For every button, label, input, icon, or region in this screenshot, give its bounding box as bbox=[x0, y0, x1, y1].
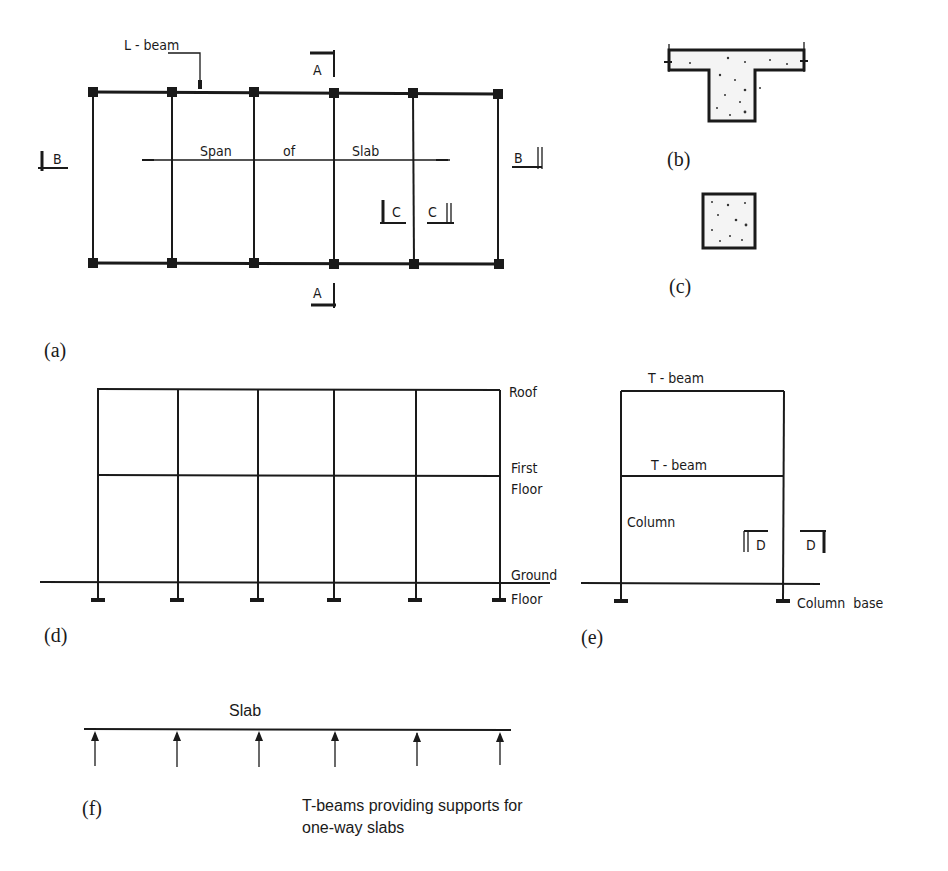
panel-d-label: (d) bbox=[44, 624, 67, 647]
section-marker-c-left: C bbox=[380, 200, 406, 224]
caption-line-1: T-beams providing supports for bbox=[302, 797, 523, 814]
l-beam-leader-line bbox=[168, 53, 200, 86]
first-floor-label-2: Floor bbox=[511, 481, 543, 497]
ground-line bbox=[40, 582, 550, 583]
svg-text:A: A bbox=[313, 285, 322, 301]
elevation-columns bbox=[98, 389, 500, 599]
span-label-word-2: of bbox=[283, 143, 296, 159]
column-footings bbox=[91, 598, 506, 602]
caption-line-2: one-way slabs bbox=[302, 819, 404, 836]
section-marker-d-right: D bbox=[800, 530, 826, 553]
panel-e-frame: T - beam T - beam Column D D Column base… bbox=[581, 370, 884, 649]
panel-c-label: (c) bbox=[669, 275, 691, 298]
right-footing bbox=[776, 599, 790, 603]
span-label-word-1: Span bbox=[200, 143, 232, 159]
top-beam-line bbox=[93, 92, 498, 94]
panel-c-column-section: (c) bbox=[669, 194, 755, 298]
tbeam-cross-section bbox=[669, 50, 804, 121]
slab-line bbox=[84, 729, 511, 730]
section-marker-d-left: D bbox=[744, 531, 768, 553]
section-marker-b-right: B bbox=[512, 147, 542, 169]
section-marker-b-left: B bbox=[38, 151, 68, 171]
roof-label: Roof bbox=[509, 384, 538, 400]
panel-b-label: (b) bbox=[667, 148, 690, 171]
column-base-label: Column base bbox=[797, 595, 884, 611]
l-beam-label: L - beam bbox=[124, 37, 179, 53]
floor-tbeam-label: T - beam bbox=[650, 457, 707, 473]
svg-text:B: B bbox=[514, 150, 523, 166]
bottom-beam-line bbox=[93, 263, 498, 264]
section-marker-c-right: C bbox=[427, 203, 454, 224]
left-footing bbox=[614, 599, 628, 603]
panel-f-slab-supports: Slab (f) T-beams providing supports for … bbox=[82, 702, 523, 836]
section-marker-a-bottom: A bbox=[311, 283, 336, 308]
panel-b-tbeam-section: (b) bbox=[664, 42, 808, 171]
ground-floor-label-2: Floor bbox=[511, 591, 543, 607]
ground-floor-label-1: Ground bbox=[511, 567, 557, 583]
section-marker-a-top: A bbox=[310, 50, 334, 78]
roof-beam-line bbox=[97, 389, 500, 390]
right-column-line bbox=[783, 391, 784, 600]
svg-text:C: C bbox=[392, 204, 401, 220]
panel-d-elevation: Roof First Floor Ground Floor (d) bbox=[40, 384, 557, 647]
support-arrows bbox=[91, 731, 504, 767]
panel-a-label: (a) bbox=[44, 339, 66, 362]
svg-text:B: B bbox=[53, 151, 62, 167]
column-label: Column bbox=[627, 514, 675, 530]
panel-e-label: (e) bbox=[581, 626, 603, 649]
column-cross-section bbox=[703, 194, 755, 248]
first-floor-label-1: First bbox=[511, 460, 537, 476]
first-floor-beam-line bbox=[98, 475, 500, 476]
panel-a-plan: L - beam Span of Slab A A B bbox=[38, 37, 542, 362]
panel-f-label: (f) bbox=[82, 797, 102, 820]
svg-text:A: A bbox=[313, 62, 322, 78]
structural-figure: L - beam Span of Slab A A B bbox=[0, 0, 948, 871]
plan-grid-lines bbox=[93, 92, 498, 264]
svg-text:C: C bbox=[428, 204, 437, 220]
svg-text:D: D bbox=[806, 537, 816, 553]
slab-label: Slab bbox=[229, 702, 261, 719]
roof-tbeam-label: T - beam bbox=[647, 370, 704, 386]
ground-line bbox=[581, 583, 820, 584]
span-label-word-3: Slab bbox=[352, 143, 379, 159]
column-nodes bbox=[88, 87, 504, 269]
svg-text:D: D bbox=[756, 537, 766, 553]
